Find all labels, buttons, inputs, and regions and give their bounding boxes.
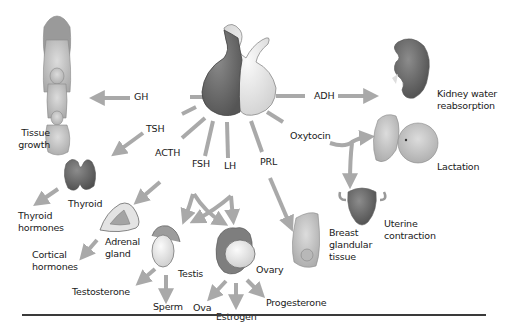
- breast: [292, 213, 319, 268]
- label-ova: Ova: [193, 302, 211, 314]
- label-tissue-growth: Tissue growth: [14, 127, 50, 151]
- label-acth: ACTH: [155, 147, 180, 159]
- kidney: [392, 39, 429, 99]
- label-kidney-water-reabsorption: Kidney water reabsorption: [437, 88, 505, 112]
- acth-arrow-segment: [182, 118, 205, 138]
- acth-arrow: [139, 182, 160, 200]
- testis: [152, 226, 180, 267]
- pituitary-hormone-diagram: GH TSH ACTH FSH LH PRL Oxytocin ADH Tiss…: [0, 0, 505, 333]
- oxytocin-arrow-segment: [267, 112, 283, 122]
- label-lh: LH: [224, 160, 236, 172]
- label-testis: Testis: [178, 268, 203, 280]
- label-uterine-contraction: Uterine contraction: [384, 218, 444, 242]
- label-cortical-hormones: Cortical hormones: [32, 249, 82, 273]
- tsh-arrow: [117, 133, 143, 152]
- cortical-hormones-arrow: [84, 240, 97, 255]
- progesterone-arrow: [247, 280, 260, 293]
- lh-ovary-arrow: [231, 196, 233, 218]
- testosterone-arrow: [141, 269, 155, 281]
- label-lactation: Lactation: [437, 161, 479, 173]
- label-adrenal-gland: Adrenal gland: [105, 236, 145, 260]
- label-ovary: Ovary: [256, 264, 283, 276]
- label-testosterone: Testosterone: [72, 286, 130, 298]
- lh-arrow-stem: [227, 122, 228, 158]
- ova-arrow: [212, 281, 226, 296]
- label-thyroid-hormones: Thyroid hormones: [18, 210, 74, 234]
- label-gh: GH: [134, 91, 148, 103]
- prl-arrow-segment: [251, 121, 262, 152]
- oxytocin-lactation-arrow: [330, 137, 368, 145]
- label-sperm: Sperm: [153, 301, 183, 313]
- nursing-mother-baby: [373, 115, 438, 163]
- label-fsh: FSH: [192, 158, 210, 170]
- adrenal-gland: [100, 203, 139, 232]
- diagram-canvas: [0, 0, 505, 333]
- prl-arrow: [270, 178, 290, 225]
- label-prl: PRL: [260, 156, 277, 168]
- tsh-arrow-segment: [182, 107, 196, 114]
- pituitary-gland: [202, 24, 276, 115]
- label-adh: ADH: [314, 90, 334, 102]
- oxytocin-uterine-arrow: [350, 143, 352, 182]
- uterus: [340, 188, 386, 225]
- fsh-arrow-stem: [205, 121, 213, 156]
- label-estrogen: Estrogen: [216, 311, 256, 323]
- label-progesterone: Progesterone: [266, 297, 326, 309]
- label-oxytocin: Oxytocin: [290, 130, 331, 142]
- ovary: [216, 228, 255, 274]
- label-breast-glandular-tissue: Breast glandular tissue: [329, 227, 379, 263]
- label-tsh: TSH: [146, 123, 164, 135]
- fsh-testis-arrow: [185, 194, 193, 218]
- anterior-lobe: [202, 30, 242, 116]
- label-thyroid: Thyroid: [68, 198, 102, 210]
- thyroid-gland: [64, 159, 95, 190]
- thyroid-hormones-arrow: [39, 189, 58, 202]
- bottom-rule-divider: [22, 314, 486, 316]
